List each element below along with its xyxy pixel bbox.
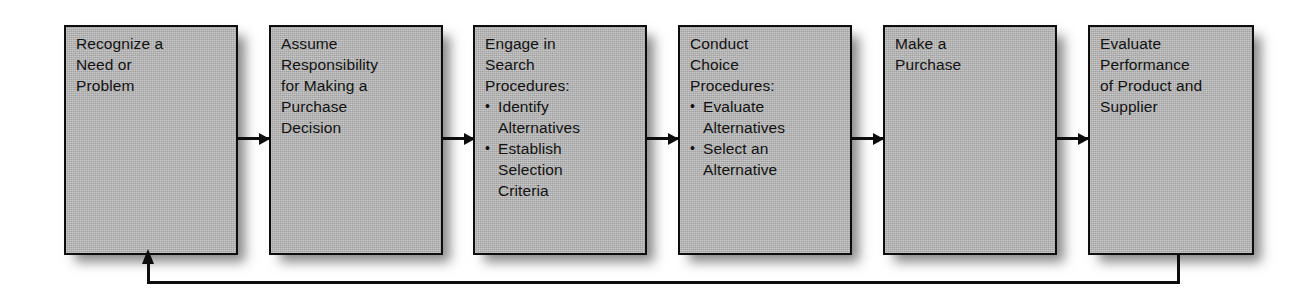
step-text-block: Engage in Search Procedures: Identify Al… xyxy=(485,33,637,201)
step-line: Purchase xyxy=(281,96,433,117)
arrow-right-icon-step3-to-step4 xyxy=(647,137,678,140)
step-line: Choice xyxy=(690,54,842,75)
step-line: Responsibility xyxy=(281,54,433,75)
process-step-conduct-choice-procedures: Conduct Choice Procedures: Evaluate Alte… xyxy=(678,25,852,255)
step-line: Procedures: xyxy=(485,75,637,96)
step-bullet-line: Establish xyxy=(485,138,637,159)
feedback-loop-horizontal-run xyxy=(147,281,1180,284)
step-line: Engage in xyxy=(485,33,637,54)
step-line: Recognize a xyxy=(76,33,228,54)
step-line: Performance xyxy=(1100,54,1244,75)
step-bullet-line: Identify xyxy=(485,96,637,117)
step-line: Procedures: xyxy=(690,75,842,96)
step-text-block: Assume Responsibility for Making a Purch… xyxy=(281,33,433,138)
arrow-right-icon-step1-to-step2 xyxy=(238,137,269,140)
step-line: Make a xyxy=(895,33,1047,54)
step-line: Selection xyxy=(485,159,637,180)
step-line: Purchase xyxy=(895,54,1047,75)
process-step-assume-responsibility: Assume Responsibility for Making a Purch… xyxy=(269,25,443,255)
arrow-right-icon-step4-to-step5 xyxy=(852,137,883,140)
step-text-block: Make a Purchase xyxy=(895,33,1047,75)
step-line: for Making a xyxy=(281,75,433,96)
step-line: Problem xyxy=(76,75,228,96)
step-line: Alternatives xyxy=(690,117,842,138)
step-line: Evaluate xyxy=(1100,33,1244,54)
step-line: Alternative xyxy=(690,159,842,180)
arrow-right-icon-step5-to-step6 xyxy=(1057,137,1088,140)
step-line: Search xyxy=(485,54,637,75)
arrow-up-icon-feedback-loop xyxy=(147,263,150,284)
step-line: Criteria xyxy=(485,180,637,201)
feedback-loop-vertical-drop xyxy=(1177,255,1180,284)
process-step-engage-search-procedures: Engage in Search Procedures: Identify Al… xyxy=(473,25,647,255)
step-line: Alternatives xyxy=(485,117,637,138)
step-bullet-line: Evaluate xyxy=(690,96,842,117)
step-text-block: Conduct Choice Procedures: Evaluate Alte… xyxy=(690,33,842,180)
step-text-block: Recognize a Need or Problem xyxy=(76,33,228,96)
process-step-recognize-need: Recognize a Need or Problem xyxy=(64,25,238,255)
step-text-block: Evaluate Performance of Product and Supp… xyxy=(1100,33,1244,117)
step-bullet-line: Select an xyxy=(690,138,842,159)
step-line: Decision xyxy=(281,117,433,138)
step-line: Need or xyxy=(76,54,228,75)
step-line: of Product and xyxy=(1100,75,1244,96)
process-step-evaluate-performance: Evaluate Performance of Product and Supp… xyxy=(1088,25,1254,255)
step-line: Conduct xyxy=(690,33,842,54)
process-flow-diagram: Recognize a Need or Problem Assume Respo… xyxy=(0,0,1309,303)
arrow-right-icon-step2-to-step3 xyxy=(443,137,474,140)
step-line: Supplier xyxy=(1100,96,1244,117)
step-line: Assume xyxy=(281,33,433,54)
process-step-make-purchase: Make a Purchase xyxy=(883,25,1057,255)
